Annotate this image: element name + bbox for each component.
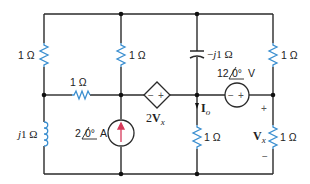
- svg-text:1 Ω: 1 Ω: [280, 131, 297, 143]
- svg-text:Vx: Vx: [253, 129, 266, 145]
- svg-text:1 Ω: 1 Ω: [281, 49, 298, 61]
- svg-text:0°: 0°: [85, 127, 95, 139]
- resistor-horizontal: 1 Ω: [70, 76, 90, 99]
- svg-text:V: V: [248, 67, 255, 79]
- inductor: j1 Ω: [16, 122, 48, 146]
- voltage-source: − + 12 0° V: [217, 67, 255, 107]
- current-source: 2 0° A: [75, 120, 134, 146]
- svg-text:+: +: [158, 90, 164, 101]
- svg-text:1 Ω: 1 Ω: [204, 131, 221, 143]
- svg-text:−j1 Ω: −j1 Ω: [207, 48, 233, 60]
- resistor-right-top: 1 Ω: [269, 43, 298, 67]
- svg-text:2: 2: [75, 127, 81, 139]
- svg-text:12: 12: [217, 67, 229, 79]
- svg-text:A: A: [100, 127, 107, 139]
- svg-text:+: +: [238, 90, 244, 101]
- svg-text:−: −: [228, 90, 234, 101]
- svg-text:+: +: [261, 103, 267, 114]
- svg-text:1 Ω: 1 Ω: [70, 76, 87, 88]
- svg-text:j1 Ω: j1 Ω: [16, 128, 38, 140]
- svg-text:1 Ω: 1 Ω: [18, 49, 35, 61]
- resistor-io: 1 Ω: [193, 125, 221, 149]
- svg-text:Io: Io: [201, 101, 211, 117]
- resistor-left-top: 1 Ω: [18, 43, 48, 67]
- resistor-mid-top: 1 Ω: [117, 43, 146, 67]
- svg-text:−: −: [148, 90, 154, 101]
- circuit-diagram: 1 Ω 1 Ω 1 Ω j1 Ω 2 0° A − + 2Vx: [0, 0, 310, 184]
- dependent-voltage-source: − + 2Vx: [144, 82, 170, 127]
- svg-text:1 Ω: 1 Ω: [129, 49, 146, 61]
- svg-text:0°: 0°: [232, 67, 242, 79]
- svg-text:−: −: [262, 151, 268, 162]
- svg-text:2Vx: 2Vx: [146, 111, 165, 127]
- resistor-vx: 1 Ω + − Vx: [253, 103, 297, 162]
